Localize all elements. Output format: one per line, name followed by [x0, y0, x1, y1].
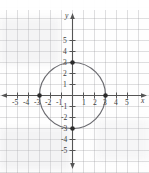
y-tick-label--3: -3: [61, 125, 67, 133]
y-tick-label--4: -4: [61, 136, 67, 144]
y-tick-label--2: -2: [61, 114, 67, 122]
y-tick-label-3: 3: [63, 59, 67, 67]
x-tick-label--3: -3: [34, 99, 40, 107]
y-tick-label-4: 4: [63, 48, 67, 56]
circle-graph-figure: -5 -4 -3 -2 -1 1 2 3 4 5 5 4 3 2 1 -1 -2…: [0, 0, 149, 173]
y-axis-label: y: [65, 12, 68, 20]
x-tick-label-4: 4: [114, 99, 118, 107]
graph-canvas: [0, 0, 149, 173]
y-tick-label-5: 5: [63, 37, 67, 45]
x-tick-label-1: 1: [82, 99, 86, 107]
x-tick-label--5: -5: [12, 99, 18, 107]
x-axis-label: x: [141, 97, 144, 105]
y-tick-label--1: -1: [61, 103, 67, 111]
y-tick-label-2: 2: [63, 70, 67, 78]
point-0-3: [70, 60, 75, 65]
x-tick-label-3: 3: [103, 99, 107, 107]
y-axis: [70, 13, 75, 169]
x-tick-label-5: 5: [125, 99, 129, 107]
point-0-neg3: [70, 126, 75, 131]
x-tick-label-2: 2: [93, 99, 97, 107]
y-tick-label--5: -5: [61, 147, 67, 155]
y-tick-label-1: 1: [63, 81, 67, 89]
x-tick-label--4: -4: [23, 99, 29, 107]
x-tick-label--2: -2: [45, 99, 51, 107]
